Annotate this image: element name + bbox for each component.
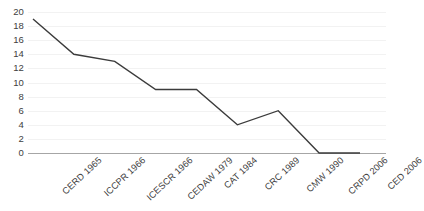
- y-tick-label: 18: [13, 21, 24, 31]
- y-tick-label: 20: [13, 7, 24, 17]
- x-tick-label: CED 2006: [386, 155, 424, 192]
- y-tick-label: 14: [13, 49, 24, 59]
- series-line: [28, 12, 386, 153]
- x-tick-label: CRC 1989: [263, 155, 302, 192]
- series-polyline: [33, 19, 360, 153]
- y-tick-label: 4: [19, 120, 24, 130]
- y-tick-label: 2: [19, 134, 24, 144]
- x-tick-label: CMW 1990: [305, 155, 346, 194]
- y-tick-label: 6: [19, 106, 24, 116]
- y-axis: 02468101214161820: [0, 12, 24, 153]
- y-tick-label: 0: [19, 148, 24, 158]
- x-tick-label: CRPD 2006: [347, 155, 390, 196]
- x-tick-label: CERD 1965: [60, 155, 103, 196]
- y-tick-label: 10: [13, 78, 24, 88]
- x-tick-label: ICCPR 1966: [102, 155, 147, 198]
- y-tick-label: 8: [19, 92, 24, 102]
- plot-area: [28, 12, 386, 153]
- y-tick-label: 12: [13, 63, 24, 73]
- y-tick-label: 16: [13, 35, 24, 45]
- x-axis: CERD 1965ICCPR 1966ICESCR 1966CEDAW 1979…: [28, 153, 386, 211]
